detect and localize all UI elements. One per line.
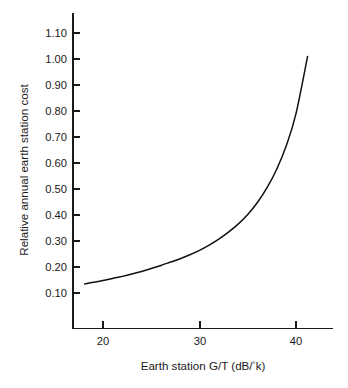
y-tick-label: 0.40 (45, 209, 67, 221)
x-axis-ticks (103, 321, 296, 329)
x-tick-label: 20 (97, 335, 109, 347)
y-tick-label: 0.70 (45, 131, 67, 143)
y-tick-label: 0.30 (45, 235, 67, 247)
x-axis-title-prefix: Earth station G/T (dB/ (141, 359, 254, 372)
cost-curve (85, 56, 308, 284)
y-tick-label: 1.10 (45, 27, 67, 39)
x-tick-label: 40 (290, 335, 302, 347)
chart-figure: 1.10 1.00 0.90 0.80 0.70 0.60 0.50 0.40 … (0, 0, 348, 388)
y-axis-ticks (73, 33, 80, 293)
y-axis-title: Relative annual earth station cost (17, 84, 30, 256)
y-tick-label: 1.00 (45, 53, 67, 65)
y-tick-label: 0.20 (45, 261, 67, 273)
y-tick-label: 0.80 (45, 105, 67, 117)
y-tick-label: 0.10 (45, 287, 67, 299)
x-axis-title-suffix: k) (256, 359, 266, 372)
y-tick-label: 0.50 (45, 183, 67, 195)
x-tick-label: 30 (194, 335, 206, 347)
y-tick-label: 0.90 (45, 79, 67, 91)
x-axis-title: Earth station G/T (dB/°k) (141, 359, 266, 372)
chart-canvas: 1.10 1.00 0.90 0.80 0.70 0.60 0.50 0.40 … (0, 0, 348, 388)
y-tick-label: 0.60 (45, 157, 67, 169)
